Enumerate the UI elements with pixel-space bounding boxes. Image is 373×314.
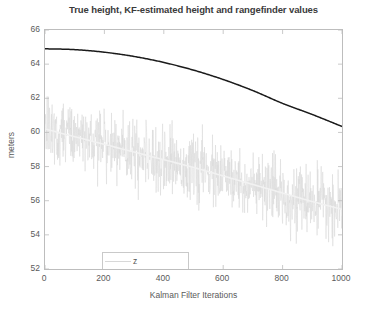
y-tick-label: 62 xyxy=(6,92,40,102)
x-tick-label: 400 xyxy=(133,273,193,283)
figure-container: True height, KF-estimated height and ran… xyxy=(0,0,373,314)
series-z-noise xyxy=(45,96,342,246)
y-tick-label: 52 xyxy=(6,263,40,273)
plot-svg xyxy=(45,30,342,269)
x-tick-label: 1000 xyxy=(311,273,371,283)
y-tick-label: 66 xyxy=(6,24,40,34)
page-title: True height, KF-estimated height and ran… xyxy=(44,4,343,15)
plot-area: z HeightFromKF ytr xyxy=(44,29,343,270)
legend[interactable]: z HeightFromKF ytr xyxy=(102,252,189,270)
legend-label-z: z xyxy=(131,256,137,266)
legend-swatch-z xyxy=(105,255,131,267)
x-tick-label: 600 xyxy=(192,273,252,283)
x-tick-label: 800 xyxy=(252,273,312,283)
legend-item-heightfromkf[interactable]: HeightFromKF xyxy=(103,268,188,270)
y-tick-label: 64 xyxy=(6,58,40,68)
legend-item-z[interactable]: z xyxy=(103,253,188,268)
x-tick-label: 0 xyxy=(14,273,74,283)
series-heightfromkf-line xyxy=(45,49,342,127)
x-axis-label: Kalman Filter Iterations xyxy=(44,290,343,300)
y-tick-label: 56 xyxy=(6,195,40,205)
y-tick-label: 54 xyxy=(6,229,40,239)
y-axis-label: meters xyxy=(6,115,16,175)
x-tick-label: 200 xyxy=(73,273,133,283)
legend-swatch-heightfromkf xyxy=(105,270,131,271)
